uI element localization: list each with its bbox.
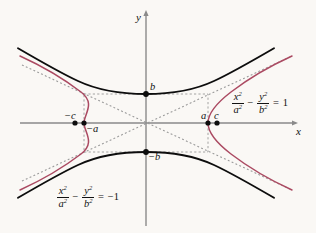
hyperbola-diagram: y x a c −c −a b −b x2 a2 − y2 b2 = 1 x2 … <box>0 0 316 233</box>
label-vertex-positive-a: a <box>201 111 206 122</box>
equation-right-rhs: 1 <box>283 98 288 109</box>
equation-right-denominator-b: b2 <box>257 104 269 115</box>
point-vertex-positive-b <box>143 91 149 97</box>
equation-right-minus-operator: − <box>248 98 254 109</box>
equation-bottom-left-fraction-y: y2 b2 <box>82 185 94 209</box>
equation-bottom-left-denominator-b: b2 <box>82 198 94 209</box>
asymptote-negative-slope <box>22 65 290 189</box>
equation-right-fraction-x: x2 a2 <box>232 91 244 115</box>
equation-bottom-left-denominator-a: a2 <box>57 198 69 209</box>
equation-right-fraction-y: y2 b2 <box>257 91 269 115</box>
y-axis-label: y <box>136 12 141 23</box>
label-vertex-negative-a: −a <box>86 124 98 135</box>
equation-bottom-left-equals-sign: = <box>98 192 104 203</box>
x-axis-label: x <box>296 126 301 137</box>
y-axis-arrowhead <box>143 10 148 16</box>
equation-bottom-left-numerator-x: x2 <box>57 185 68 196</box>
equation-bottom-left: x2 a2 − y2 b2 = −1 <box>56 185 119 209</box>
equation-right: x2 a2 − y2 b2 = 1 <box>231 91 288 115</box>
label-vertex-positive-b: b <box>150 82 155 93</box>
equation-right-numerator-x: x2 <box>232 91 243 102</box>
label-focus-negative-c: −c <box>64 111 76 122</box>
hyperbola-canvas <box>0 0 316 233</box>
equation-right-numerator-y: y2 <box>258 91 269 102</box>
equation-right-equals-sign: = <box>273 98 279 109</box>
equation-bottom-left-fraction-x: x2 a2 <box>57 185 69 209</box>
equation-bottom-left-rhs: −1 <box>108 192 119 203</box>
label-focus-positive-c: c <box>214 111 219 122</box>
label-vertex-negative-b: −b <box>148 152 160 163</box>
equation-right-denominator-a: a2 <box>232 104 244 115</box>
equation-bottom-left-numerator-y: y2 <box>83 185 94 196</box>
equation-bottom-left-minus-operator: − <box>73 192 79 203</box>
